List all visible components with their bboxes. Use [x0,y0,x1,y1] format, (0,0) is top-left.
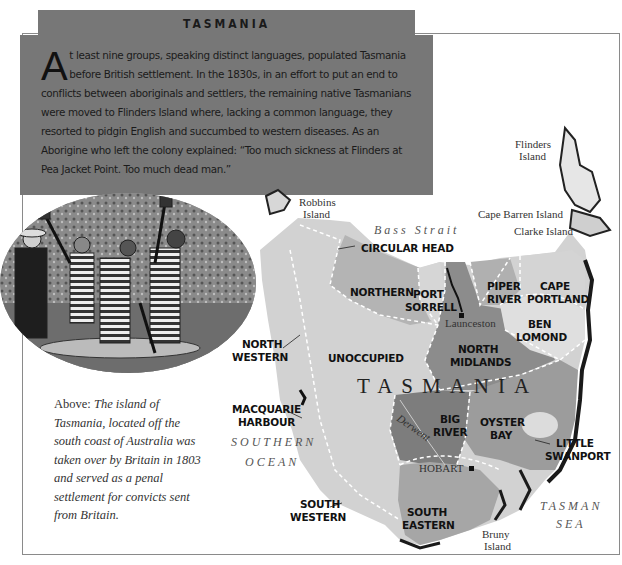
region-big-river-2: RIVER [433,426,467,438]
region-unoccupied: UNOCCUPIED [328,352,404,364]
bass-strait-label: Bass Strait [374,223,459,237]
hobart-marker [469,466,474,471]
region-south-eastern: SOUTH [407,506,447,518]
region-cape-portland: CAPE [540,280,570,292]
region-north-midlands-2: MIDLANDS [450,356,511,368]
region-ben-lomond-2: LOMOND [516,331,567,343]
tasman-sea-label-2: SEA [556,517,586,531]
flinders-island-label: Flinders [515,138,551,150]
region-port-sorrell: PORT [413,288,445,300]
region-little-swanport-2: SWANPORT [545,450,611,462]
tasmania-map: Robbins Island Flinders Island Cape Barr… [0,0,622,565]
region-circular-head: CIRCULAR HEAD [361,242,454,254]
robbins-island [266,190,290,214]
region-south-eastern-2: EASTERN [402,519,455,531]
region-north-midlands: NORTH [458,343,498,355]
region-ben-lomond: BEN [528,318,551,330]
southern-ocean-label: SOUTHERN [231,435,316,449]
region-north-western: NORTH [242,338,282,350]
clarke-island-label: Clarke Island [514,225,573,237]
region-oyster-bay: OYSTER [480,416,525,428]
region-big-river: BIG [440,413,460,425]
region-cape-portland-2: PORTLAND [527,293,590,305]
cape-barren-label: Cape Barren Island [478,208,563,220]
region-macquarie-harbour-2: HARBOUR [238,416,295,428]
region-macquarie-harbour: MACQUARIE [232,403,301,415]
region-south-western-2: WESTERN [290,511,346,523]
region-south-western: SOUTH [300,498,340,510]
region-little-swanport: LITTLE [556,437,594,449]
flinders-island-label-2: Island [519,150,546,162]
region-piper-river-2: RIVER [487,293,521,305]
robbins-island-label-2: Island [303,208,330,220]
flinders-island [560,128,610,236]
region-northern: NORTHERN [350,286,414,298]
bruny-island-label-2: Island [484,540,511,552]
hobart-label: HOBART [419,462,464,474]
southern-ocean-label-2: OCEAN [245,455,299,469]
tasmania-map-title: TASMANIA [357,374,538,398]
tasman-sea-label: TASMAN [540,499,602,513]
region-oyster-bay-2: BAY [490,429,513,441]
bruny-island-label: Bruny [482,528,510,540]
region-piper-river: PIPER [487,280,521,292]
robbins-island-label: Robbins [299,196,336,208]
launceston-label: Launceston [445,317,496,329]
region-port-sorrell-2: SORRELL [405,301,457,313]
region-north-western-2: WESTERN [232,351,288,363]
